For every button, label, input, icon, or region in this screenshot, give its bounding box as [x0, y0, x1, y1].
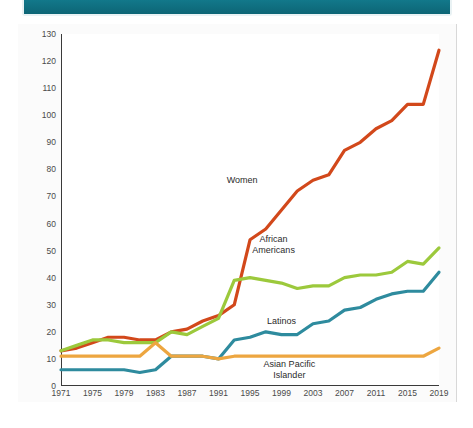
x-axis-tick: 1991: [209, 388, 228, 398]
series-label: Asian PacificIslander: [264, 359, 316, 381]
line-series: [61, 248, 439, 351]
x-axis-tick: 2019: [430, 388, 449, 398]
header-band: [22, 0, 452, 16]
y-axis-tick: 80: [47, 164, 56, 174]
y-axis-tick: 30: [47, 300, 56, 310]
chart-panel: 0102030405060708090100110120130 WomenAfr…: [18, 24, 457, 402]
x-axis-labels: 1971197519791983198719911995199920032007…: [61, 388, 439, 404]
y-axis-tick: 10: [47, 354, 56, 364]
x-axis-tick: 1999: [272, 388, 291, 398]
line-series: [61, 50, 439, 351]
y-axis-tick: 110: [42, 83, 56, 93]
x-axis-tick: 1995: [241, 388, 260, 398]
x-axis-tick: 1971: [52, 388, 71, 398]
line-series: [61, 343, 439, 359]
y-axis-labels: 0102030405060708090100110120130: [18, 34, 56, 386]
x-axis-tick: 1987: [178, 388, 197, 398]
y-axis-tick: 50: [47, 246, 56, 256]
y-axis-tick: 120: [42, 56, 56, 66]
x-axis-tick: 1979: [115, 388, 134, 398]
series-label: Women: [227, 175, 258, 186]
plot-area: WomenAfricanAmericansLatinosAsian Pacifi…: [61, 34, 439, 386]
x-axis-tick: 2011: [367, 388, 385, 398]
y-axis-tick: 90: [47, 137, 56, 147]
y-axis-tick: 40: [47, 273, 56, 283]
series-label: AfricanAmericans: [252, 234, 295, 256]
x-axis-tick: 1975: [83, 388, 102, 398]
y-axis-tick: 100: [42, 110, 56, 120]
x-axis-tick: 1983: [146, 388, 165, 398]
header-band-fill: [24, 0, 450, 14]
chart-page: 0102030405060708090100110120130 WomenAfr…: [0, 0, 473, 428]
y-axis-tick: 70: [47, 191, 56, 201]
y-axis-tick: 20: [47, 327, 56, 337]
x-axis-tick: 2015: [398, 388, 417, 398]
x-axis-tick: 2007: [335, 388, 354, 398]
y-axis-tick: 60: [47, 219, 56, 229]
x-axis-tick: 2003: [304, 388, 323, 398]
series-lines: [61, 34, 439, 386]
y-axis-tick: 130: [42, 29, 56, 39]
series-label: Latinos: [267, 316, 296, 327]
